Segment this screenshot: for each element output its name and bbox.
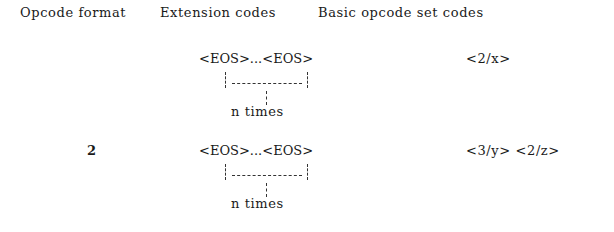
bracket-left-tick (225, 72, 226, 88)
bracket-line (232, 175, 302, 176)
bracket-right-tick (307, 164, 308, 180)
eos-dots: ... (250, 143, 262, 158)
eos-dots: ... (250, 51, 262, 66)
eos-last: <EOS> (262, 143, 313, 158)
basic-codes-value: <2/x> (466, 51, 511, 66)
header-basic-opcode-set-codes: Basic opcode set codes (318, 5, 484, 20)
eos-first: <EOS> (199, 51, 250, 66)
repeat-label: n times (231, 196, 284, 211)
eos-last: <EOS> (262, 51, 313, 66)
opcode-format-value: 2 (87, 143, 97, 158)
header-opcode-format: Opcode format (20, 5, 126, 20)
bracket-line (232, 83, 302, 84)
repeat-label: n times (231, 104, 284, 119)
extension-sequence: <EOS>...<EOS> (199, 51, 313, 66)
bracket-left-tick (225, 164, 226, 180)
bracket-stem (266, 183, 267, 197)
bracket-stem (266, 91, 267, 105)
header-extension-codes: Extension codes (160, 5, 276, 20)
basic-codes-value: <3/y> <2/z> (466, 143, 560, 158)
bracket-right-tick (307, 72, 308, 88)
extension-sequence: <EOS>...<EOS> (199, 143, 313, 158)
eos-first: <EOS> (199, 143, 250, 158)
